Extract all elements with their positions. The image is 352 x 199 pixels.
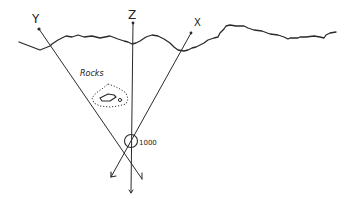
depth-label: 1000 bbox=[139, 139, 157, 147]
rocks-diamond-shape bbox=[100, 94, 116, 101]
z-origin-dot bbox=[132, 22, 135, 25]
x-origin-dot bbox=[190, 32, 193, 35]
rocks-dotted-outline bbox=[92, 84, 128, 107]
z-axis-label: Z bbox=[128, 8, 136, 22]
x-line bbox=[111, 33, 191, 177]
y-line bbox=[39, 29, 142, 179]
rocks-label: Rocks bbox=[80, 69, 104, 78]
y-origin-dot bbox=[37, 27, 40, 30]
cross-section-diagram: Y Z X Rocks 1000 bbox=[0, 0, 352, 199]
ground-surface-line bbox=[19, 25, 336, 51]
x-axis-label: X bbox=[194, 17, 201, 28]
y-axis-label: Y bbox=[31, 12, 40, 26]
rocks-small-circle bbox=[118, 98, 121, 101]
z-line bbox=[131, 23, 133, 193]
